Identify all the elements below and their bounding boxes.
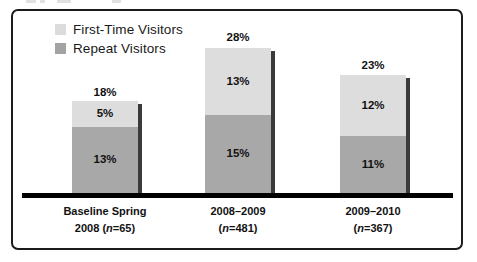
category-label-3-n: n — [357, 222, 364, 234]
chart-axis-baseline — [22, 193, 453, 198]
stacked-bar-3: 12% 11% — [340, 75, 406, 193]
bar-segment-label-repeat-3: 11% — [362, 159, 384, 171]
category-label-2-line1: 2008–2009 — [210, 205, 265, 217]
bar-segment-repeat-3: 11% — [340, 136, 406, 193]
category-label-1-line1: Baseline Spring — [63, 205, 146, 217]
category-label-1-suffix: =65) — [113, 222, 135, 234]
bar-shadow-3 — [406, 78, 410, 193]
legend-label-repeat: Repeat Visitors — [73, 41, 166, 56]
category-label-2-n: n — [222, 222, 229, 234]
stacked-bar-2: 13% 15% — [205, 48, 271, 193]
category-label-1-n: n — [106, 222, 113, 234]
category-label-1-line2: 2008 (n=65) — [30, 220, 180, 237]
bar-segment-label-repeat-2: 15% — [226, 148, 249, 160]
chart-plot-area: First-Time Visitors Repeat Visitors 18% … — [0, 0, 477, 262]
bar-segment-first-time-1: 5% — [72, 101, 138, 127]
legend-swatch-repeat-icon — [55, 43, 66, 54]
category-label-3-line2: (n=367) — [298, 220, 448, 237]
bar-segment-label-first-time-2: 13% — [226, 76, 249, 88]
bar-shadow-2 — [271, 51, 275, 193]
bar-segment-first-time-3: 12% — [340, 75, 406, 136]
legend-swatch-first-time-icon — [55, 24, 66, 35]
category-label-2-line2: (n=481) — [163, 220, 313, 237]
bar-segment-first-time-2: 13% — [205, 48, 271, 115]
bar-segment-label-first-time-1: 5% — [97, 108, 114, 120]
legend-label-first-time: First-Time Visitors — [73, 22, 183, 37]
figure-container: First-Time Visitors Repeat Visitors 18% … — [0, 0, 477, 262]
bar-segment-repeat-1: 13% — [72, 127, 138, 193]
category-label-3-line1: 2009–2010 — [345, 205, 400, 217]
bar-shadow-1 — [138, 104, 142, 193]
bar-total-label-3: 23% — [340, 59, 406, 71]
bar-total-label-2: 28% — [205, 31, 271, 43]
category-label-3: 2009–2010 (n=367) — [298, 203, 448, 237]
category-label-3-suffix: =367) — [364, 222, 392, 234]
category-label-2: 2008–2009 (n=481) — [163, 203, 313, 237]
category-label-2-suffix: =481) — [229, 222, 257, 234]
stacked-bar-1: 5% 13% — [72, 101, 138, 193]
category-label-1-prefix: 2008 ( — [75, 222, 106, 234]
bar-segment-repeat-2: 15% — [205, 115, 271, 193]
bar-segment-label-first-time-3: 12% — [361, 100, 384, 112]
bar-segment-label-repeat-1: 13% — [93, 154, 116, 166]
category-label-1: Baseline Spring 2008 (n=65) — [30, 203, 180, 237]
bar-total-label-1: 18% — [72, 86, 138, 98]
